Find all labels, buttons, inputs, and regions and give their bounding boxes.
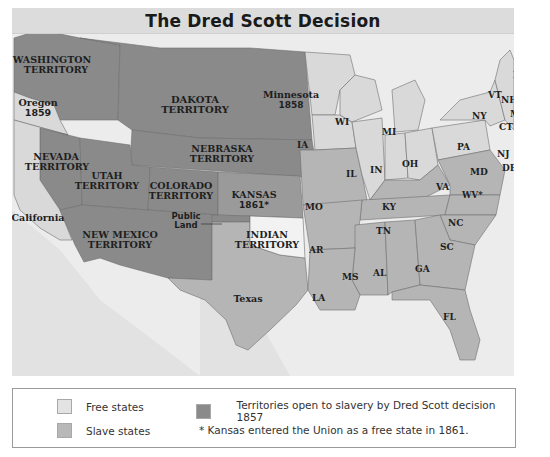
state-label-nc: NC	[448, 218, 463, 228]
legend-territories: Territories open to slavery by Dred Scot…	[196, 399, 515, 423]
title-bar: The Dred Scott Decision	[12, 8, 514, 34]
colorado-label-2: TERRITORY	[149, 190, 213, 201]
state-label-il: IL	[346, 169, 357, 179]
state-label-tn: TN	[376, 226, 391, 236]
indiana-state	[385, 133, 408, 180]
state-label-nh: NH	[501, 95, 514, 105]
state-label-la: LA	[312, 293, 326, 303]
map-title: The Dred Scott Decision	[145, 11, 380, 31]
state-label-ct: CT	[499, 122, 513, 132]
washington-label-2: TERRITORY	[24, 64, 88, 75]
indian-label-2: TERRITORY	[235, 239, 299, 250]
state-label-ga: GA	[415, 264, 431, 274]
state-label-wi: WI	[334, 117, 349, 127]
territories-swatch	[196, 404, 211, 419]
utah-label-2: TERRITORY	[75, 180, 139, 191]
map-frame: The Dred Scott Decision	[12, 8, 514, 376]
kansas-footnote: * Kansas entered the Union as a free sta…	[199, 424, 469, 436]
free-states-swatch	[57, 399, 72, 414]
nevada-label-2: TERRITORY	[25, 161, 89, 172]
minnesota-label-1: Minnesota	[263, 89, 319, 100]
state-label-de: DE	[502, 163, 514, 173]
legend-free-states: Free states	[57, 399, 144, 414]
map-legend: Free states Slave states Territories ope…	[12, 388, 516, 448]
state-label-oh: OH	[402, 159, 419, 169]
kansas-label-2: 1861*	[239, 200, 269, 210]
nebraska-label-2: TERRITORY	[190, 153, 254, 164]
state-label-fl: FL	[443, 312, 456, 322]
state-label-pa: PA	[457, 142, 471, 152]
slave-states-swatch	[57, 423, 72, 438]
state-label-ia: IA	[297, 140, 309, 150]
state-label-ma: MA	[510, 109, 514, 119]
state-label-va: VA	[435, 182, 450, 192]
public-land	[212, 215, 250, 222]
state-label-wv: WV*	[461, 190, 483, 200]
state-label-ms: MS	[342, 272, 358, 282]
new-mexico-label-2: TERRITORY	[88, 239, 152, 250]
territories-label: Territories open to slavery by Dred Scot…	[237, 399, 515, 423]
state-label-md: MD	[470, 167, 488, 177]
california-label: California	[12, 212, 65, 223]
texas-label: Texas	[233, 293, 262, 304]
state-label-mo: MO	[305, 202, 323, 212]
us-map: WASHINGTON TERRITORY Oregon 1859 DAKOTA …	[12, 8, 514, 376]
state-label-ar: AR	[308, 245, 324, 255]
state-label-me: ME	[513, 70, 514, 80]
slave-states-label: Slave states	[86, 425, 150, 437]
state-label-ky: KY	[382, 202, 397, 212]
state-label-in: IN	[370, 165, 382, 175]
state-label-mi: MI	[382, 127, 396, 137]
public-land-label-2: Land	[174, 220, 197, 230]
minnesota-label-2: 1858	[278, 100, 303, 110]
free-states-label: Free states	[86, 401, 144, 413]
state-label-sc: SC	[440, 242, 454, 252]
legend-slave-states: Slave states	[57, 423, 150, 438]
state-label-ny: NY	[472, 111, 487, 121]
state-label-vt: VT	[487, 90, 502, 100]
state-label-al: AL	[372, 268, 387, 278]
state-label-nj: NJ	[497, 149, 510, 159]
kansas-label-1: KANSAS	[231, 189, 276, 200]
dakota-label-2: TERRITORY	[161, 104, 230, 115]
oregon-label-2: 1859	[25, 107, 51, 118]
